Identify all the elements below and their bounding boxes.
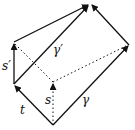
homotopy-diagram: t s′ γ′ s γ — [0, 0, 135, 130]
edge-top-right — [92, 5, 129, 45]
edge-gamma — [53, 46, 128, 125]
label-t: t — [20, 103, 25, 117]
label-gamma: γ — [82, 93, 90, 107]
edge-gamma-prime — [14, 6, 88, 84]
solid-edges — [14, 5, 129, 125]
label-s: s — [45, 93, 51, 107]
edge-back-right-dotted — [53, 46, 126, 82]
label-s-prime: s′ — [2, 59, 11, 73]
dotted-edges — [15, 44, 126, 125]
diagram-canvas: t s′ γ′ s γ — [0, 0, 135, 130]
edge-top-left — [14, 5, 88, 42]
label-gamma-prime: γ′ — [53, 43, 63, 57]
